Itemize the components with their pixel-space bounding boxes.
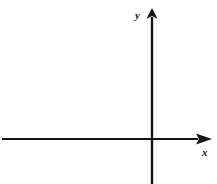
axes-drawing [0,0,217,184]
coordinate-axes-figure: y x [0,0,217,184]
x-axis-label: x [202,147,208,158]
y-axis-label: y [135,10,140,21]
x-axis-arrowhead-icon [196,134,212,145]
